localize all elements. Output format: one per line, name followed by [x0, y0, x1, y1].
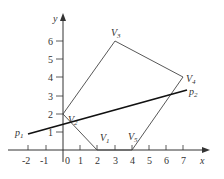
vertex-label-v5: V5 — [128, 131, 138, 144]
y-ticks — [56, 41, 63, 132]
svg-text:3: 3 — [48, 91, 53, 102]
svg-text:3: 3 — [113, 155, 118, 166]
line-label-p2: p2 — [188, 86, 198, 99]
svg-text:4: 4 — [48, 72, 53, 83]
svg-text:6: 6 — [164, 155, 169, 166]
vertex-label-v3: V3 — [111, 27, 121, 40]
diagram-canvas: -2 -1 0 1 2 3 4 5 6 7 x 1 2 3 4 5 6 y V1… — [0, 0, 224, 179]
x-axis-arrow-icon — [202, 147, 210, 153]
y-axis — [60, 13, 66, 162]
vertex-label-v1: V1 — [100, 132, 110, 145]
svg-text:5: 5 — [48, 54, 53, 65]
svg-text:6: 6 — [48, 36, 53, 47]
y-axis-arrow-icon — [60, 13, 66, 21]
svg-text:4: 4 — [130, 155, 135, 166]
svg-text:2: 2 — [48, 109, 53, 120]
y-axis-label: y — [52, 13, 58, 24]
x-tick-labels: -2 -1 0 1 2 3 4 5 6 7 — [22, 155, 186, 166]
svg-text:0: 0 — [65, 155, 70, 166]
svg-text:-1: -1 — [40, 155, 48, 166]
svg-text:-2: -2 — [22, 155, 30, 166]
x-ticks — [28, 145, 183, 150]
svg-text:5: 5 — [147, 155, 152, 166]
svg-text:7: 7 — [181, 155, 186, 166]
svg-text:1: 1 — [78, 155, 83, 166]
vertex-label-v4: V4 — [186, 73, 196, 86]
svg-text:2: 2 — [95, 155, 100, 166]
line-label-p1: p1 — [14, 127, 24, 140]
x-axis-label: x — [199, 155, 205, 166]
svg-text:1: 1 — [48, 127, 53, 138]
y-tick-labels: 1 2 3 4 5 6 — [48, 36, 53, 138]
